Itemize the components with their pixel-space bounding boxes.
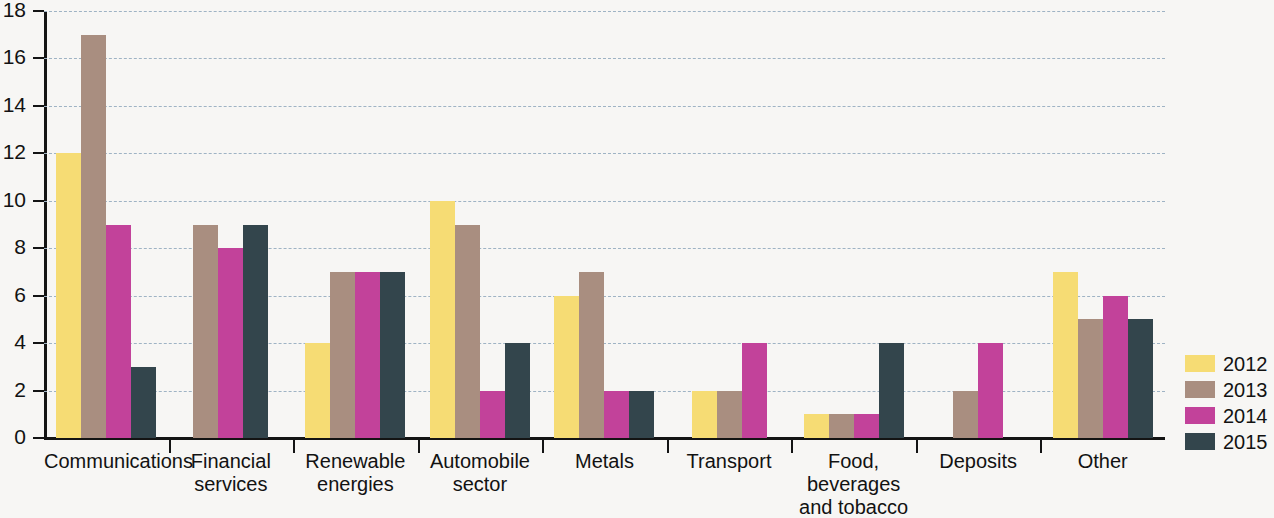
legend-swatch-icon: [1185, 355, 1215, 372]
bar-2013: [717, 391, 742, 438]
bar-group: [791, 11, 916, 438]
bar-2012: [1053, 272, 1078, 438]
bar-group: [44, 11, 169, 438]
legend-label: 2014: [1223, 406, 1268, 426]
bar-2015: [131, 367, 156, 438]
y-axis-tick-label: 14: [3, 94, 26, 115]
bar-group: [418, 11, 543, 438]
legend-item-2013[interactable]: 2013: [1185, 378, 1269, 401]
y-axis-tick: 12: [33, 152, 44, 154]
category-label: Metals: [542, 450, 667, 473]
legend-item-2012[interactable]: 2012: [1185, 352, 1269, 375]
bar-2012: [692, 391, 717, 438]
legend-swatch-icon: [1185, 433, 1215, 450]
bar-group: [667, 11, 792, 438]
bar-group: [542, 11, 667, 438]
category-label: Renewable energies: [293, 450, 418, 496]
bar-2014: [480, 391, 505, 438]
category-label: Transport: [667, 450, 792, 473]
y-axis-tick: 0: [33, 437, 44, 439]
category-label: Communications: [44, 450, 169, 473]
bar-group: [916, 11, 1041, 438]
bar-2013: [579, 272, 604, 438]
legend-label: 2013: [1223, 380, 1268, 400]
category-label: Food, beverages and tobacco: [791, 450, 916, 518]
bar-2014: [218, 248, 243, 438]
y-axis-tick-label: 18: [3, 0, 26, 20]
bar-2013: [81, 35, 106, 438]
bar-2014: [1103, 296, 1128, 438]
bar-2012: [430, 201, 455, 438]
legend-label: 2015: [1223, 432, 1268, 452]
bar-2015: [879, 343, 904, 438]
y-axis-tick: 10: [33, 200, 44, 202]
y-axis-tick: 8: [33, 247, 44, 249]
bar-2014: [604, 391, 629, 438]
category-label: Other: [1040, 450, 1165, 473]
category-label: Deposits: [916, 450, 1041, 473]
legend-item-2014[interactable]: 2014: [1185, 404, 1269, 427]
bar-2013: [1078, 319, 1103, 438]
bar-2014: [106, 225, 131, 439]
bar-group: [293, 11, 418, 438]
bar-2014: [978, 343, 1003, 438]
y-axis-tick: 18: [33, 10, 44, 12]
y-axis-tick: 4: [33, 342, 44, 344]
bar-2015: [243, 225, 268, 439]
plot-area: 024681012141618: [44, 11, 1165, 438]
category-label: Automobile sector: [418, 450, 543, 496]
legend: 2012201320142015: [1185, 352, 1269, 456]
y-axis-tick-label: 12: [3, 142, 26, 163]
bar-2014: [854, 414, 879, 438]
bar-2015: [505, 343, 530, 438]
bar-2015: [1128, 319, 1153, 438]
bar-2014: [355, 272, 380, 438]
y-axis-tick: 16: [33, 57, 44, 59]
bar-group: [169, 11, 294, 438]
y-axis-tick: 2: [33, 390, 44, 392]
legend-item-2015[interactable]: 2015: [1185, 430, 1269, 453]
y-axis-tick: 6: [33, 295, 44, 297]
bar-2014: [742, 343, 767, 438]
bar-2012: [804, 414, 829, 438]
bar-2012: [305, 343, 330, 438]
bar-2015: [380, 272, 405, 438]
bar-2013: [455, 225, 480, 439]
legend-label: 2012: [1223, 354, 1268, 374]
bar-2013: [953, 391, 978, 438]
y-axis-tick-label: 2: [14, 379, 26, 400]
bar-2015: [629, 391, 654, 438]
y-axis-tick-label: 6: [14, 284, 26, 305]
y-axis-tick-label: 10: [3, 189, 26, 210]
y-axis-tick-label: 16: [3, 47, 26, 68]
y-axis-tick-label: 8: [14, 237, 26, 258]
bar-2013: [829, 414, 854, 438]
legend-swatch-icon: [1185, 407, 1215, 424]
y-axis-tick: 14: [33, 105, 44, 107]
y-axis-tick-label: 4: [14, 331, 26, 352]
bar-group: [1040, 11, 1165, 438]
y-axis-tick-label: 0: [14, 426, 26, 447]
bar-2013: [193, 225, 218, 439]
bar-2012: [56, 153, 81, 438]
category-label: Financial services: [169, 450, 294, 496]
bar-2012: [554, 296, 579, 438]
bar-2013: [330, 272, 355, 438]
legend-swatch-icon: [1185, 381, 1215, 398]
